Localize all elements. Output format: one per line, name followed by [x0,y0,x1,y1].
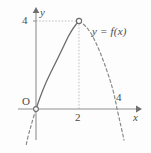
function-graph-figure: y x 4 2 4 O y = f(x) [0,0,151,153]
curve-dashed-left-branch [26,109,36,146]
curve-dashed-right-branch [79,21,124,140]
origin-open-circle-marker [34,107,39,112]
function-equation-label: y = f(x) [92,26,127,37]
origin-label: O [22,96,30,107]
x-tick-label-2: 2 [75,112,81,123]
y-axis-arrow-icon [33,7,40,13]
curve-solid-branch [36,21,79,109]
x-axis-label: x [133,112,138,123]
vertex-open-circle-marker [76,18,81,23]
y-tick-label-4: 4 [22,15,28,26]
x-tick-label-4: 4 [116,92,122,103]
y-axis-label: y [40,7,45,18]
